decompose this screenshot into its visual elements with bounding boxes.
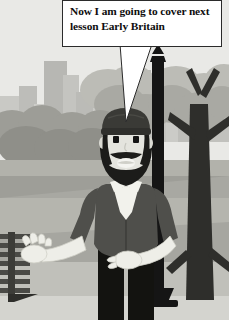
scene-illustration [0, 0, 229, 320]
right-eye [133, 136, 139, 143]
hat-brim [101, 128, 151, 135]
speech-bubble-text: Now I am going to cover next lesson Earl… [70, 4, 218, 34]
left-eye [113, 136, 119, 143]
scene-canvas: Now I am going to cover next lesson Earl… [0, 0, 229, 320]
speech-bubble: Now I am going to cover next lesson Earl… [62, 0, 222, 47]
